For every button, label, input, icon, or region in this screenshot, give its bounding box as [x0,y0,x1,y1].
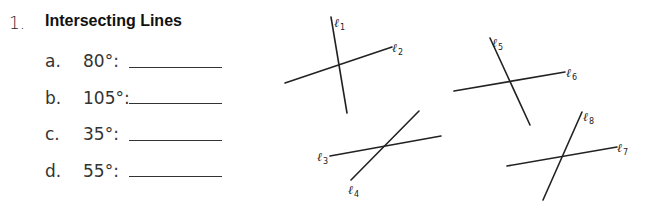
line-l2 [285,47,392,83]
svg-text:7: 7 [623,148,628,157]
svg-text:ℓ: ℓ [583,110,588,124]
label-l1: ℓ 1 [334,16,345,32]
svg-text:4: 4 [354,190,359,199]
svg-text:ℓ: ℓ [334,16,339,30]
svg-text:ℓ: ℓ [348,183,353,197]
svg-text:3: 3 [323,157,328,166]
line-l8 [543,112,582,200]
svg-text:5: 5 [498,43,503,52]
label-l2: ℓ 2 [392,41,403,57]
svg-text:ℓ: ℓ [617,141,622,155]
svg-text:ℓ: ℓ [566,66,571,80]
svg-text:2: 2 [398,48,403,57]
line-l4 [351,111,419,180]
label-l8: ℓ 8 [583,110,594,126]
svg-text:1: 1 [340,23,345,32]
label-l7: ℓ 7 [617,141,628,157]
line-l6 [454,72,565,91]
svg-text:ℓ: ℓ [392,41,397,55]
intersecting-lines-figure: ℓ 1 ℓ 2 ℓ 3 ℓ 4 ℓ 5 ℓ 6 ℓ 7 ℓ 8 [0,0,649,207]
svg-text:ℓ: ℓ [317,150,322,164]
label-l3: ℓ 3 [317,150,328,166]
label-l4: ℓ 4 [348,183,359,199]
svg-text:ℓ: ℓ [492,36,497,50]
label-l6: ℓ 6 [566,66,577,82]
svg-text:8: 8 [589,117,594,126]
label-l5: ℓ 5 [492,36,503,52]
svg-text:6: 6 [572,73,577,82]
